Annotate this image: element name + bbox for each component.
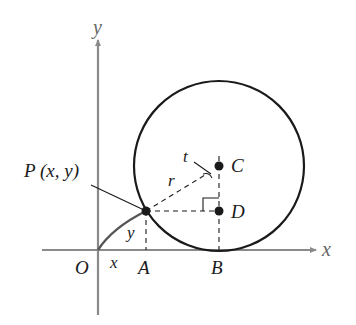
point-d-label: D bbox=[230, 201, 245, 222]
angle-t-label: t bbox=[183, 147, 189, 166]
diagram-canvas: y x O P (x, y) A B C D x y r t bbox=[0, 0, 356, 325]
segment-y-label: y bbox=[125, 223, 135, 242]
point-b-label: B bbox=[211, 257, 223, 278]
t-pointer-line bbox=[194, 162, 211, 174]
origin-label: O bbox=[75, 257, 89, 278]
point-c-label: C bbox=[231, 155, 244, 176]
curve-o-to-p bbox=[98, 211, 146, 250]
dashed-p-to-c-radius bbox=[146, 175, 205, 211]
point-c bbox=[215, 162, 224, 171]
point-d bbox=[215, 207, 224, 216]
segment-r-label: r bbox=[168, 171, 175, 190]
y-axis-label: y bbox=[91, 16, 102, 39]
point-a-label: A bbox=[136, 257, 150, 278]
point-p bbox=[142, 207, 151, 216]
point-p-label: P (x, y) bbox=[23, 160, 79, 182]
segment-x-label: x bbox=[109, 253, 118, 272]
x-axis-label: x bbox=[321, 238, 331, 260]
